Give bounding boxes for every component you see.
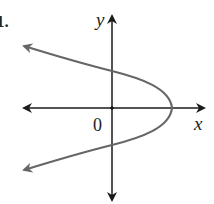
parabola-curve-upper [24, 46, 172, 108]
y-axis-label: y [94, 9, 105, 30]
origin-label: 0 [93, 115, 102, 135]
problem-label: 1. [0, 12, 9, 31]
parabola-graph: 1. y x 0 [0, 0, 214, 204]
x-axis-label: x [193, 113, 203, 134]
